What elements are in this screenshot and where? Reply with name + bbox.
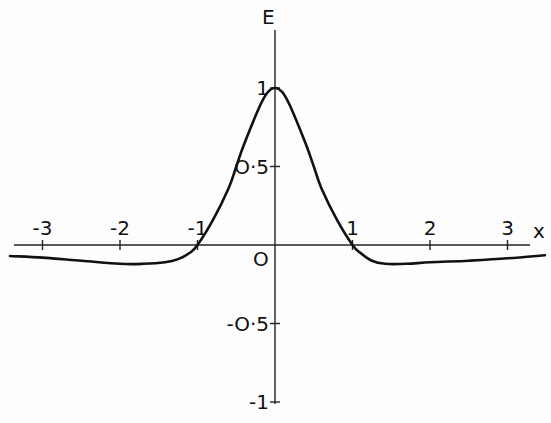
- x-tick-label: -3: [33, 216, 53, 240]
- data-curve: [10, 88, 545, 264]
- axes: [14, 30, 530, 404]
- y-tick-label: -O·5: [226, 312, 269, 336]
- chart: -3-2-11231O·5-O·5-1 x E O: [0, 0, 551, 423]
- origin-label: O: [253, 247, 269, 271]
- y-axis-label: E: [262, 5, 275, 29]
- y-tick-label: -1: [249, 390, 269, 414]
- x-axis-label: x: [533, 219, 545, 243]
- plot-area: -3-2-11231O·5-O·5-1 x E O: [0, 0, 551, 423]
- x-tick-label: 3: [501, 216, 514, 240]
- y-tick-label: 1: [256, 76, 269, 100]
- x-tick-label: 2: [424, 216, 437, 240]
- x-tick-label: -2: [110, 216, 130, 240]
